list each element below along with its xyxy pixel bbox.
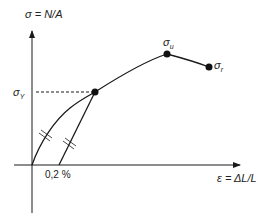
stress-strain-diagram: σ = N/A ε = ΔL/L σY σu σr 0,2 % (0, 0, 272, 223)
x-axis-label: ε = ΔL/L (217, 172, 257, 184)
ultimate-point (164, 51, 171, 58)
parallel-marks-curve (39, 130, 52, 141)
ultimate-label: σu (163, 36, 174, 50)
offset-label: 0,2 % (45, 169, 71, 180)
rupture-point (206, 64, 213, 71)
yield-point (92, 89, 99, 96)
y-axis-label: σ = N/A (25, 8, 63, 20)
yield-label: σY (13, 86, 26, 100)
stress-strain-curve (32, 54, 209, 165)
rupture-label: σr (214, 59, 224, 73)
